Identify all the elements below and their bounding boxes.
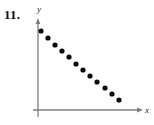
data-point [87,73,92,78]
data-point [38,28,43,33]
data-point [52,42,57,47]
data-point [116,97,121,102]
data-point-group [38,28,121,102]
data-point [94,79,99,84]
x-axis-arrowhead [137,108,143,113]
data-point [102,85,107,90]
data-point [73,61,78,66]
data-point [66,54,71,59]
axes-group [33,18,143,117]
data-point [80,67,85,72]
y-axis-arrowhead [36,18,41,24]
data-point [59,48,64,53]
data-point [45,35,50,40]
scatter-plot-figure: 11. y x [0,0,154,125]
plot-canvas [0,0,154,125]
data-point [109,91,114,96]
